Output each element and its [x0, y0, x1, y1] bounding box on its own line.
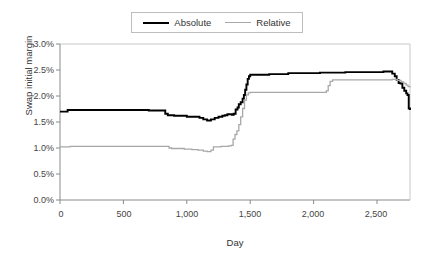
chart-container: Absolute Relative Swap initial margin 3.… — [0, 0, 421, 263]
data-line-relative — [60, 79, 410, 151]
plot-area — [0, 0, 421, 263]
data-series-layer — [60, 72, 410, 152]
figure-caption-sliver — [4, 256, 416, 263]
data-line-absolute — [60, 72, 410, 121]
plot-frame — [60, 44, 410, 200]
axis-ticks — [56, 44, 377, 204]
